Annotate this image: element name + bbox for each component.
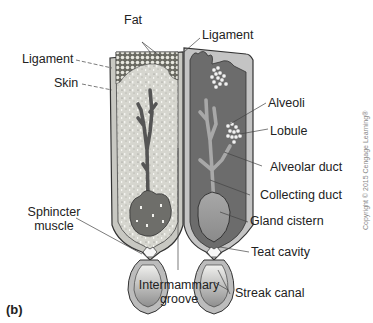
label-lobule: Lobule [270,124,308,138]
label-intermammary-groove: Intermammary groove [134,278,224,306]
label-intermammary-line2: groove [134,292,224,306]
label-sphincter-muscle: Sphincter muscle [26,205,82,233]
label-ligament-left: Ligament [22,52,73,66]
label-collecting-duct: Collecting duct [260,188,342,202]
label-streak-canal: Streak canal [235,286,304,300]
left-quarter [110,52,183,314]
copyright-notice: Copyright © 2015 Cengage Learning® [362,111,369,230]
label-sphincter-line1: Sphincter [26,205,82,219]
label-sphincter-line2: muscle [26,219,82,233]
label-ligament-top: Ligament [202,28,253,42]
label-fat: Fat [124,13,142,27]
label-teat-cavity: Teat cavity [251,245,310,259]
right-quarter [184,48,253,314]
panel-label: (b) [6,302,23,317]
label-gland-cistern: Gland cistern [250,214,324,228]
label-intermammary-line1: Intermammary [134,278,224,292]
label-alveolar-duct: Alveolar duct [270,160,342,174]
label-alveoli: Alveoli [268,96,305,110]
label-skin: Skin [54,76,78,90]
